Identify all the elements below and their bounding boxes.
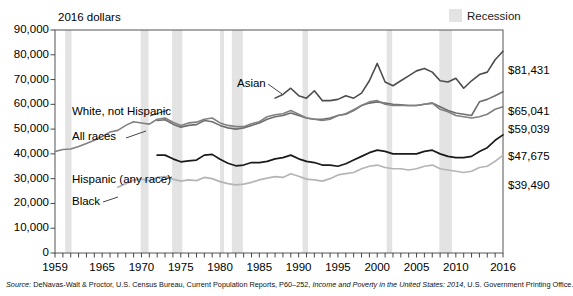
end-value-label: $39,490 xyxy=(508,180,550,192)
end-value-label: $59,039 xyxy=(508,124,550,136)
end-value-label: $65,041 xyxy=(508,106,550,118)
source-title: Income and Poverty in the United States:… xyxy=(312,280,463,289)
end-value-label: $81,431 xyxy=(508,65,550,77)
source-body-2: , U.S. Government Printing Office. xyxy=(463,280,573,289)
source-prefix: Source: xyxy=(6,280,31,289)
end-value-label: $47,675 xyxy=(508,151,550,163)
source-body-1: DeNavas-Walt & Proctor, U.S. Census Bure… xyxy=(33,280,310,289)
source-note: Source: DeNavas-Walt & Proctor, U.S. Cen… xyxy=(6,281,573,289)
